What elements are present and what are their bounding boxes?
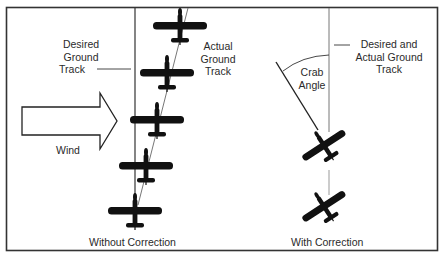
label-line: Actual	[196, 40, 240, 53]
aircraft-icon	[130, 102, 184, 139]
aircraft-icon	[294, 179, 354, 235]
right-panel	[276, 8, 354, 235]
with-correction-caption: With Correction	[291, 236, 363, 248]
label-line: Track	[34, 63, 110, 76]
left-panel	[22, 8, 207, 230]
wind-label: Wind	[50, 144, 86, 157]
aircraft-icon	[119, 148, 173, 185]
label-line: Actual Ground	[352, 51, 426, 64]
aircraft-icon	[140, 55, 194, 92]
label-line: Ground	[52, 51, 110, 64]
actual-ground-track-label: Actual Ground Track	[196, 40, 240, 78]
label-line: Desired and	[352, 38, 426, 51]
label-line: Angle	[295, 79, 329, 92]
label-line: Track	[352, 63, 426, 76]
label-line: Track	[196, 65, 240, 78]
label-line: Desired	[52, 38, 110, 51]
desired-actual-ground-track-label: Desired and Actual Ground Track	[352, 38, 426, 76]
label-line: Ground	[196, 53, 240, 66]
label-line: Wind	[50, 144, 86, 157]
crab-angle-label: Crab Angle	[295, 66, 329, 91]
label-line: Crab	[295, 66, 329, 79]
without-correction-caption: Without Correction	[89, 236, 176, 248]
aircraft-icon	[294, 118, 354, 174]
aircraft-icon	[108, 193, 162, 230]
desired-ground-track-label: Desired Ground Track	[52, 38, 110, 76]
wind-arrow-icon	[22, 93, 117, 149]
